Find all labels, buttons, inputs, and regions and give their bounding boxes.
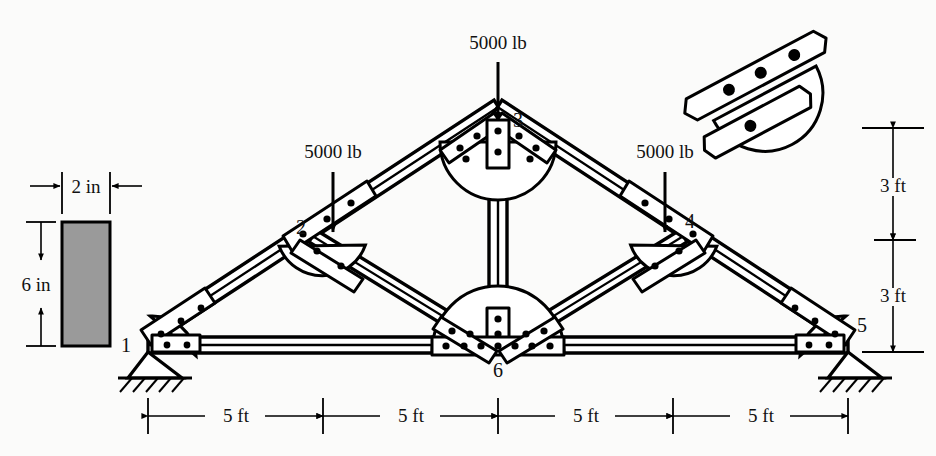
support-right-triangle	[828, 352, 882, 378]
node-label-6: 6	[493, 359, 503, 381]
vdim-label-upper: 3 ft	[880, 175, 907, 196]
support-left-hatching	[120, 378, 184, 392]
joint-1-splice-bottom	[152, 335, 200, 352]
support-pin-right	[818, 352, 892, 392]
support-left-triangle	[128, 352, 182, 378]
section-width-label: 2 in	[71, 176, 101, 197]
load-label-node-4: 5000 lb	[636, 141, 694, 162]
truss-diagram-svg: 5000 lb 5000 lb 5000 lb 1 2 3 4 5 6	[0, 0, 936, 456]
joint-6-connection	[432, 286, 564, 363]
figure-canvas: 5000 lb 5000 lb 5000 lb 1 2 3 4 5 6	[0, 0, 936, 456]
section-rectangle	[62, 222, 110, 346]
node-label-2: 2	[296, 216, 306, 238]
node-label-4: 4	[685, 210, 695, 232]
load-label-node-3: 5000 lb	[469, 32, 527, 53]
support-right-hatching	[820, 378, 884, 392]
load-label-node-2: 5000 lb	[304, 141, 362, 162]
node-label-3: 3	[513, 109, 523, 131]
vdim-label-lower: 3 ft	[880, 285, 907, 306]
dim-label-span-2: 5 ft	[398, 405, 425, 426]
node-label-1: 1	[121, 334, 131, 356]
beam-cross-section: 2 in 6 in	[21, 172, 142, 346]
horizontal-dimension-chain: 5 ft 5 ft 5 ft 5 ft	[148, 398, 848, 434]
joint-3-splice-vertical	[487, 120, 509, 168]
section-height-label: 6 in	[21, 274, 51, 295]
joint-detail-inset	[679, 27, 863, 182]
support-pin-left	[118, 352, 192, 392]
vertical-dimension-chain: 3 ft 3 ft	[862, 128, 924, 352]
dim-label-span-4: 5 ft	[748, 405, 775, 426]
joint-5-splice-bottom	[796, 335, 844, 352]
dim-label-span-3: 5 ft	[573, 405, 600, 426]
node-label-5: 5	[857, 314, 867, 336]
dim-label-span-1: 5 ft	[223, 405, 250, 426]
